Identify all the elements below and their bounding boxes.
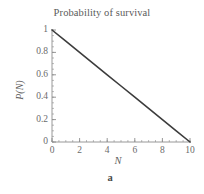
y-axis-tick-label: 0 [22,136,48,146]
data-series [52,30,190,142]
series-line [52,30,190,142]
x-axis-tick-label: 8 [150,145,174,155]
x-axis-tick-label: 6 [123,145,147,155]
y-axis-tick-label: 0.2 [22,114,48,124]
x-axis-tick-label: 10 [178,145,202,155]
y-axis-tick-label: 0.6 [22,69,48,79]
panel-label: a [92,172,128,183]
x-axis-label: N [98,155,138,166]
x-axis-tick-label: 4 [95,145,119,155]
x-axis-tick-label: 0 [40,145,64,155]
y-axis-tick-label: 0.4 [22,91,48,101]
figure-panel: Probability of survival P(N) N a 0246810… [0,0,204,194]
x-axis-tick-label: 2 [68,145,92,155]
y-axis-tick-label: 0.8 [22,46,48,56]
y-axis-tick-label: 1 [22,24,48,34]
